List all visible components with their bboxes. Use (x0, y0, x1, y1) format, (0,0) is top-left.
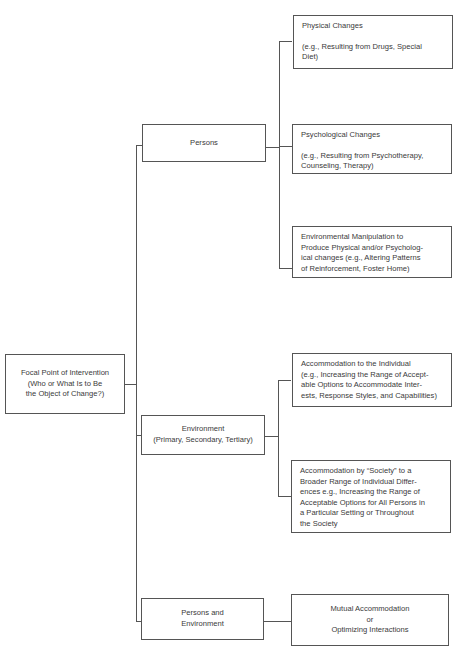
accommodation-individual-line-3: able Options to Accommodate Inter- (301, 380, 443, 391)
environment-label-line-2: (Primary, Secondary, Tertiary) (153, 435, 253, 446)
accommodation-individual-line-2: (e.g., Increasing the Range of Accept- (301, 370, 443, 381)
env-manipulation-line-4: of Reinforcement, Foster Home) (301, 264, 443, 275)
leaf-node-accommodation-individual: Accommodation to the Individual (e.g., I… (292, 353, 452, 407)
root-label-line-3: the Object of Change?) (26, 389, 105, 400)
accommodation-society-line-4: Acceptable Options for All Persons in (300, 498, 442, 509)
mutual-accommodation-line-3: Optimizing Interactions (331, 625, 408, 636)
psychological-changes-detail-2: Counseling, Therapy) (301, 161, 443, 172)
leaf-node-accommodation-society: Accommodation by “Society” to a Broader … (291, 460, 451, 533)
connector-to-accommodation-individual (278, 380, 291, 381)
branch-node-environment: Environment (Primary, Secondary, Tertiar… (141, 415, 265, 455)
connector-trunk (136, 145, 137, 622)
persons-environment-label-line-2: Environment (181, 619, 224, 630)
accommodation-individual-line-1: Accommodation to the Individual (301, 359, 443, 370)
connector-to-accommodation-society (278, 496, 291, 497)
root-label-line-1: Focal Point of Intervention (21, 368, 109, 379)
persons-label: Persons (190, 138, 218, 149)
leaf-node-physical-changes: Physical Changes (e.g., Resulting from D… (293, 15, 453, 69)
branch-node-persons: Persons (142, 124, 266, 162)
accommodation-society-line-2: Broader Range of Individual Differ- (300, 477, 442, 488)
mutual-accommodation-line-1: Mutual Accommodation (331, 604, 410, 615)
connector-root-to-trunk (124, 384, 136, 385)
env-manipulation-line-3: ical changes (e.g., Altering Patterns (301, 253, 443, 264)
connector-environment-subtrunk (278, 380, 279, 497)
env-manipulation-line-2: Produce Physical and/or Psycholog- (301, 243, 443, 254)
env-manipulation-line-1: Environmental Manipulation to (301, 232, 443, 243)
connector-to-psychological (279, 146, 292, 147)
connector-to-physical (279, 41, 292, 42)
connector-persons-environment-to-mutual (262, 621, 291, 622)
psychological-changes-detail-1: (e.g., Resulting from Psychotherapy, (301, 151, 443, 162)
accommodation-society-line-6: the Society (300, 519, 442, 530)
accommodation-society-line-3: ences e.g., Increasing the Range of (300, 487, 442, 498)
physical-changes-detail-1: (e.g., Resulting from Drugs, Special (302, 42, 444, 53)
root-node-focal-point: Focal Point of Intervention (Who or What… (5, 354, 125, 414)
physical-changes-title: Physical Changes (302, 21, 444, 32)
environment-label-line-1: Environment (182, 424, 225, 435)
persons-environment-label-line-1: Persons and (181, 608, 224, 619)
branch-node-persons-and-environment: Persons and Environment (141, 598, 264, 640)
connector-persons-subtrunk (279, 41, 280, 269)
psychological-changes-title: Psychological Changes (301, 130, 443, 141)
physical-changes-detail-2: Diet) (302, 52, 444, 63)
connector-environment-to-subtrunk (264, 436, 278, 437)
root-label-line-2: (Who or What Is to Be (28, 379, 103, 390)
leaf-node-psychological-changes: Psychological Changes (e.g., Resulting f… (292, 124, 452, 174)
leaf-node-environmental-manipulation: Environmental Manipulation to Produce Ph… (292, 226, 452, 278)
leaf-node-mutual-accommodation: Mutual Accommodation or Optimizing Inter… (291, 594, 449, 646)
accommodation-individual-line-4: ests, Response Styles, and Capabilities) (301, 391, 443, 402)
accommodation-society-line-5: a Particular Setting or Throughout (300, 508, 442, 519)
accommodation-society-line-1: Accommodation by “Society” to a (300, 466, 442, 477)
mutual-accommodation-line-2: or (367, 615, 374, 626)
connector-to-env-manipulation (279, 268, 292, 269)
connector-persons-to-subtrunk (265, 147, 279, 148)
